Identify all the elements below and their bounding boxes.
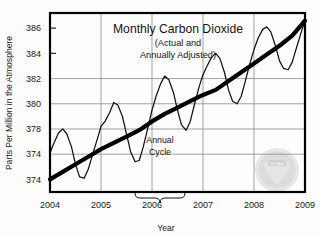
ytick-label-2: 382 [26, 74, 41, 84]
xtick-label-2008: 2008 [244, 200, 264, 210]
ytick-label-3: 380 [26, 99, 41, 109]
noaa-seal-watermark: NOAA [255, 148, 299, 192]
ytick-label-5: 374 [26, 149, 41, 159]
annotation-annual-label-line2: Cycle [149, 147, 171, 157]
xtick-label-2009: 2009 [295, 200, 315, 210]
xtick-label-2005: 2005 [91, 200, 111, 210]
x-axis-title: Year [157, 223, 175, 233]
xtick-label-2006: 2006 [142, 200, 162, 210]
ytick-label-4: 378 [26, 124, 41, 134]
ytick-label-0: 386 [26, 23, 41, 33]
chart-canvas: NOAA Monthly Carbon Dioxide (Actual and … [0, 0, 321, 237]
ytick-label-1: 384 [26, 49, 41, 59]
xtick-label-2007: 2007 [193, 200, 213, 210]
chart-subtitle-line2: Annually Adjusted) [140, 50, 216, 60]
ytick-label-6: 374 [26, 175, 41, 185]
y-axis-title: Parts Per Million in the Atmosphere [4, 36, 14, 170]
chart-subtitle-line1: (Actual and [155, 38, 201, 48]
xtick-label-2004: 2004 [40, 200, 60, 210]
chart-figure: NOAA Monthly Carbon Dioxide (Actual and … [0, 0, 321, 237]
chart-title: Monthly Carbon Dioxide [113, 22, 243, 36]
noaa-seal-label: NOAA [271, 161, 284, 166]
annotation-annual-label-line1: Annual [146, 135, 173, 145]
